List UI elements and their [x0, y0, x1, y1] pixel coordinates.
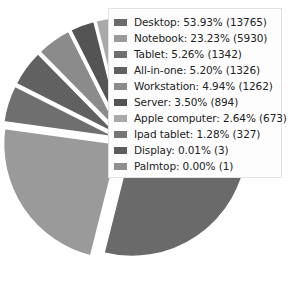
chart-legend: Desktop: 53.93% (13765)Notebook: 23.23% … [108, 8, 282, 178]
legend-item[interactable]: Workstation: 4.94% (1262) [114, 78, 275, 94]
pie-chart-figure: Desktop: 53.93% (13765)Notebook: 23.23% … [0, 0, 291, 283]
legend-item[interactable]: Notebook: 23.23% (5930) [114, 30, 275, 46]
legend-item-label: Workstation: 4.94% (1262) [134, 78, 273, 94]
legend-item-label: Display: 0.01% (3) [134, 142, 229, 158]
legend-item[interactable]: Ipad tablet: 1.28% (327) [114, 126, 275, 142]
legend-item[interactable]: All-in-one: 5.20% (1326) [114, 62, 275, 78]
legend-swatch-icon [114, 131, 127, 138]
legend-item[interactable]: Tablet: 5.26% (1342) [114, 46, 275, 62]
legend-item-label: Ipad tablet: 1.28% (327) [134, 126, 260, 142]
legend-item[interactable]: Display: 0.01% (3) [114, 142, 275, 158]
pie-slice[interactable] [3, 128, 119, 256]
legend-swatch-icon [114, 147, 127, 154]
legend-swatch-icon [114, 115, 127, 122]
legend-item[interactable]: Desktop: 53.93% (13765) [114, 14, 275, 30]
legend-item-label: Desktop: 53.93% (13765) [134, 14, 267, 30]
legend-item-label: Tablet: 5.26% (1342) [134, 46, 242, 62]
legend-item-label: Server: 3.50% (894) [134, 94, 238, 110]
legend-swatch-icon [114, 83, 127, 90]
legend-swatch-icon [114, 19, 127, 26]
legend-item-label: Apple computer: 2.64% (673) [134, 110, 287, 126]
legend-item[interactable]: Apple computer: 2.64% (673) [114, 110, 275, 126]
legend-swatch-icon [114, 51, 127, 58]
legend-item-label: Notebook: 23.23% (5930) [134, 30, 267, 46]
legend-swatch-icon [114, 35, 127, 42]
legend-swatch-icon [114, 99, 127, 106]
legend-swatch-icon [114, 67, 127, 74]
legend-item[interactable]: Palmtop: 0.00% (1) [114, 158, 275, 174]
legend-swatch-icon [114, 163, 127, 170]
legend-item-label: All-in-one: 5.20% (1326) [134, 62, 260, 78]
legend-item[interactable]: Server: 3.50% (894) [114, 94, 275, 110]
legend-item-label: Palmtop: 0.00% (1) [134, 158, 233, 174]
